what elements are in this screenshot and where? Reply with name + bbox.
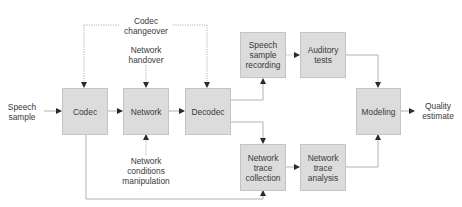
decodec-box: Decodec	[185, 88, 231, 135]
auditory-tests-box: Auditory tests	[300, 32, 346, 78]
arrow-auditory-to-modeling	[346, 55, 378, 87]
modeling-box: Modeling	[356, 88, 401, 135]
network-trace-collection-box: Network trace collection	[240, 144, 286, 191]
arrow-decodec-to-recording	[231, 79, 263, 100]
speech-sample-label: Speech sample	[2, 102, 42, 122]
codec-changeover-label: Codec changeover	[120, 16, 172, 36]
codec-box: Codec	[62, 88, 108, 135]
flow-diagram: Codec Network Decodec Speech sample reco…	[0, 0, 462, 207]
quality-estimate-label: Quality estimate	[416, 101, 460, 121]
network-handover-label: Network handover	[120, 45, 172, 65]
arrow-analysis-to-modeling	[346, 135, 378, 167]
network-box: Network	[123, 88, 169, 135]
arrow-decodec-to-trace-collection	[231, 122, 263, 143]
network-conditions-manipulation-label: Network conditions manipulation	[112, 156, 180, 186]
network-trace-analysis-box: Network trace analysis	[300, 144, 346, 191]
speech-sample-recording-box: Speech sample recording	[240, 32, 286, 78]
